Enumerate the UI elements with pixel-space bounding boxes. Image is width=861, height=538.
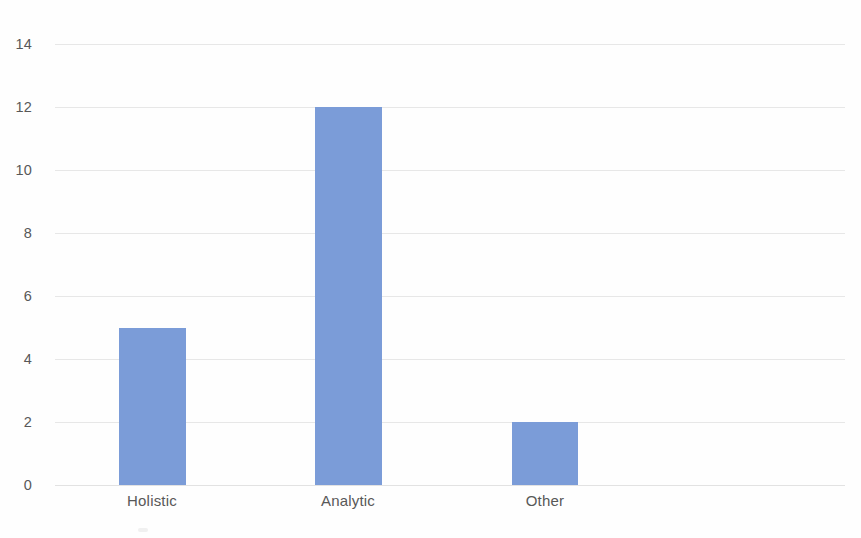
y-axis-tick-label: 6 xyxy=(0,288,32,304)
y-axis-tick-label: 8 xyxy=(0,225,32,241)
bar-analytic[interactable] xyxy=(315,107,382,485)
gridline-0-baseline xyxy=(55,485,845,486)
y-axis-tick-label: 12 xyxy=(0,99,32,115)
plot-area: 14 12 10 8 6 4 2 0 Holistic Analytic Oth… xyxy=(55,44,845,485)
x-axis-tick-label-holistic: Holistic xyxy=(127,492,177,509)
x-axis-tick-label-other: Other xyxy=(526,492,565,509)
bar-holistic[interactable] xyxy=(119,328,186,486)
x-axis-tick-label-analytic: Analytic xyxy=(321,492,375,509)
paper-artifact xyxy=(138,528,148,532)
y-axis-tick-label: 4 xyxy=(0,351,32,367)
bar-other[interactable] xyxy=(512,422,578,485)
bar-chart: 14 12 10 8 6 4 2 0 Holistic Analytic Oth… xyxy=(0,0,861,538)
y-axis-tick-label: 10 xyxy=(0,162,32,178)
y-axis-tick-label: 2 xyxy=(0,414,32,430)
y-axis-tick-label: 0 xyxy=(0,477,32,493)
y-axis-tick-label: 14 xyxy=(0,36,32,52)
bars-layer xyxy=(55,44,845,485)
